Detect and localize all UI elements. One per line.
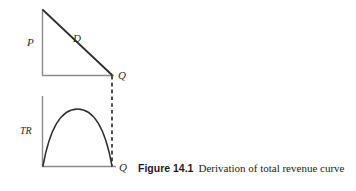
upper-panel: P D Q <box>26 9 126 81</box>
figure-caption-text: Derivation of total revenue curve <box>198 162 344 174</box>
demand-curve-label: D <box>72 32 81 44</box>
upper-x-axis-label: Q <box>118 69 126 81</box>
figure-caption-label: Figure 14.1 <box>138 162 193 174</box>
lower-y-axis-label: TR <box>20 125 32 136</box>
upper-y-axis-label: P <box>26 36 34 48</box>
total-revenue-curve <box>43 109 112 166</box>
figure-container: P D Q TR Q Figure 14.1Derivation of tota… <box>0 0 356 191</box>
lower-panel: TR Q <box>20 96 127 173</box>
figure-caption: Figure 14.1Derivation of total revenue c… <box>138 160 352 175</box>
lower-x-axis-label: Q <box>119 161 127 173</box>
